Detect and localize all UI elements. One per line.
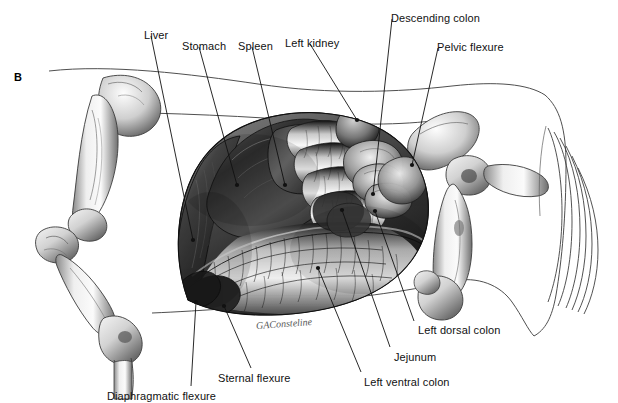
leader-dot-left-dorsal-colon [373, 209, 377, 213]
leader-line-left-kidney [310, 44, 357, 120]
label-descending-colon: Descending colon [391, 13, 480, 25]
label-liver: Liver [144, 30, 168, 42]
leader-line-diaphragmatic-flexure [191, 302, 196, 386]
label-diaphragmatic-flexure: Diaphragmatic flexure [107, 391, 216, 403]
visceral-mass [168, 108, 440, 330]
tail [539, 126, 598, 314]
leader-dot-left-kidney [355, 118, 359, 122]
label-stomach: Stomach [182, 41, 226, 53]
leader-dot-pelvic-flexure [410, 163, 414, 167]
leader-dot-stomach [235, 183, 239, 187]
leader-dot-sternal-flexure [222, 304, 226, 308]
leader-dot-liver [191, 238, 195, 242]
leader-dot-jejunum [340, 208, 344, 212]
leader-dot-descending-colon [371, 192, 375, 196]
panel-letter: B [14, 71, 22, 83]
label-spleen: Spleen [238, 41, 273, 53]
label-pelvic-flexure: Pelvic flexure [437, 42, 504, 54]
anatomy-illustration [0, 0, 618, 403]
leader-line-liver [151, 36, 193, 240]
forelimb-bones [36, 75, 161, 399]
leader-dot-left-ventral-colon [316, 266, 320, 270]
label-left-kidney: Left kidney [285, 38, 339, 50]
label-sternal-flexure: Sternal flexure [218, 373, 290, 385]
leader-line-sternal-flexure [224, 306, 251, 368]
leader-dot-spleen [283, 183, 287, 187]
anatomy-figure: B GAConsteline LiverStomachSpleenLeft ki… [0, 0, 618, 403]
hindlimb-bones [408, 112, 549, 320]
label-left-dorsal-colon: Left dorsal colon [418, 325, 500, 337]
label-jejunum: Jejunum [394, 352, 436, 364]
leader-dot-diaphragmatic-flexure [194, 300, 198, 304]
label-left-ventral-colon: Left ventral colon [364, 377, 450, 389]
